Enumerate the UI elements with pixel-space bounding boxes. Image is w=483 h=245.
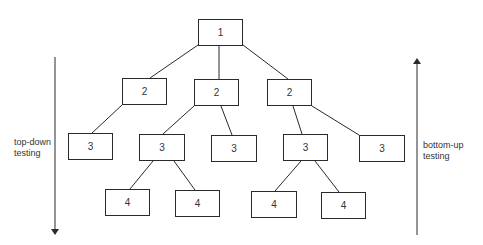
bottom-up-label-line1: bottom-up — [423, 140, 464, 151]
node-label: 3 — [231, 143, 237, 154]
node-label: 3 — [159, 142, 165, 153]
node-label: 2 — [214, 87, 220, 98]
bottom-up-label-line2: testing — [423, 151, 464, 162]
top-down-label-line2: testing — [14, 148, 51, 159]
bottom-up-label: bottom-up testing — [423, 140, 464, 162]
top-down-label: top-down testing — [14, 137, 51, 159]
tree-node-level-2: 2 — [194, 79, 239, 106]
tree-edges — [92, 45, 359, 192]
node-label: 3 — [303, 142, 309, 153]
tree-node-level-4: 4 — [251, 191, 297, 218]
node-label: 4 — [195, 198, 201, 209]
top-down-label-line1: top-down — [14, 137, 51, 148]
edge-n3b-n4a — [130, 161, 153, 189]
tree-node-level-3: 3 — [68, 133, 113, 160]
node-label: 4 — [271, 199, 277, 210]
tree-node-level-2: 2 — [267, 79, 312, 106]
tree-node-level-4: 4 — [321, 192, 366, 219]
tree-node-level-4: 4 — [105, 189, 150, 216]
tree-node-level-2: 2 — [122, 78, 167, 105]
edge-n1-n2c — [243, 45, 288, 79]
edge-n2c-n3e — [312, 106, 359, 135]
node-label: 4 — [125, 197, 131, 208]
tree-node-level-3: 3 — [283, 134, 328, 161]
node-label: 2 — [287, 87, 293, 98]
tree-node-level-3: 3 — [139, 134, 185, 161]
node-label: 3 — [379, 143, 385, 154]
edge-n3d-n4c — [275, 161, 301, 191]
node-label: 4 — [341, 200, 347, 211]
edge-n3b-n4b — [174, 161, 195, 190]
tree-node-level-1: 1 — [198, 19, 243, 46]
edge-n2b-n3b — [163, 106, 194, 134]
edge-n2b-n3c — [221, 106, 232, 135]
node-label: 2 — [142, 86, 148, 97]
tree-node-level-4: 4 — [175, 190, 220, 217]
node-label: 3 — [88, 141, 94, 152]
edge-n3d-n4d — [315, 161, 339, 192]
edge-n2a-n3a — [92, 105, 122, 133]
tree-node-level-3: 3 — [211, 135, 257, 162]
tree-node-level-3: 3 — [359, 135, 405, 162]
edge-n1-n2a — [150, 45, 198, 78]
node-label: 1 — [218, 27, 224, 38]
edge-n2c-n3d — [293, 106, 302, 134]
